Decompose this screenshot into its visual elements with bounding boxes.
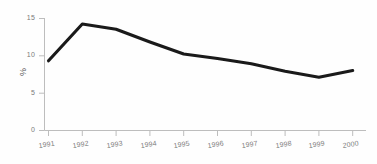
y-tick-label-15: 15 [21,14,35,21]
y-tick-label-5: 5 [21,89,35,96]
y-tick-label-0: 0 [21,126,35,133]
x-axis-ticks [49,131,353,137]
y-axis-ticks [39,19,45,131]
line-chart: % 15 10 5 0 1991 1992 1993 1994 1995 199… [0,0,377,164]
data-series-line [49,24,353,77]
y-tick-label-10: 10 [21,51,35,58]
axis-lines [45,18,367,131]
y-axis-title: % [11,60,35,84]
